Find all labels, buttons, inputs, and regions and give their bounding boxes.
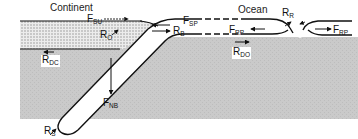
continent-label: Continent	[50, 3, 93, 13]
f-nb-label: FNB	[103, 98, 118, 110]
f-rp-left-label: FRP	[229, 25, 244, 37]
f-su-label: FSU	[87, 14, 102, 26]
r-b-label: RB	[173, 26, 185, 38]
r-r-label: RR	[282, 8, 294, 20]
ocean-label: Ocean	[238, 5, 267, 15]
plate-tectonics-diagram	[0, 0, 358, 139]
r-o-label: RO	[100, 30, 112, 42]
f-rp-right-label: FRP	[333, 25, 348, 37]
r-do-label: RDO	[232, 47, 251, 59]
r-dc-label: RDC	[41, 55, 60, 67]
f-sp-label: FSP	[183, 16, 198, 28]
r-r-right-arrow	[300, 22, 305, 24]
r-s-label: RS	[44, 126, 56, 138]
